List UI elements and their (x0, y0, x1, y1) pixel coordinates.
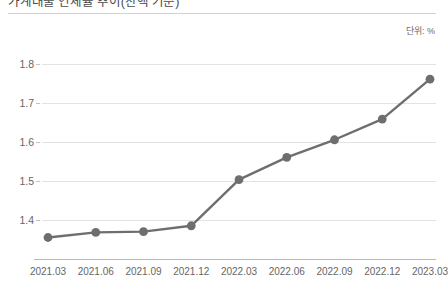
line-series: 2021.03: 1.355%2021.06: 1.368%2021.09: 1… (42, 44, 436, 259)
title-divider (8, 13, 436, 14)
data-point[interactable]: 2021.03: 1.355% (44, 233, 53, 242)
x-tick-label: 2021.06 (78, 266, 114, 277)
x-axis: 2021.032021.062021.092021.122022.032022.… (42, 266, 436, 286)
data-point[interactable]: 2022.12: 1.658% (378, 115, 387, 124)
y-tick-mark (36, 181, 40, 182)
data-point[interactable]: 2021.09: 1.37% (139, 227, 148, 236)
y-tick-mark (36, 64, 40, 65)
y-tick-label: 1.5 (19, 175, 34, 187)
x-tick-label: 2022.09 (316, 266, 352, 277)
page-title: 가계대출 연체율 추이(잔액 기준) (8, 0, 179, 10)
y-tick-mark (36, 142, 40, 143)
x-tick-label: 2023.03 (412, 266, 448, 277)
data-point[interactable]: 2022.09: 1.605% (330, 135, 339, 144)
x-tick-label: 2021.09 (125, 266, 161, 277)
x-tick-label: 2022.12 (364, 266, 400, 277)
x-tick-label: 2022.06 (269, 266, 305, 277)
x-tick-label: 2022.03 (221, 266, 257, 277)
y-tick-label: 1.8 (19, 58, 34, 70)
y-tick-mark (36, 220, 40, 221)
data-point[interactable]: 2021.12: 1.385% (187, 221, 196, 230)
data-point[interactable]: 2021.06: 1.368% (91, 228, 100, 237)
unit-label: 단위: % (406, 24, 435, 37)
series-line (48, 79, 430, 237)
data-point[interactable]: 2022.03: 1.503% (235, 175, 244, 184)
x-tick-label: 2021.12 (173, 266, 209, 277)
y-tick-label: 1.4 (19, 214, 34, 226)
y-tick-label: 1.6 (19, 136, 34, 148)
x-tick-label: 2021.03 (30, 266, 66, 277)
y-axis: 1.41.51.61.71.8 (0, 44, 34, 259)
x-axis-line (34, 259, 436, 260)
data-point[interactable]: 2023.03: 1.76% (426, 75, 435, 84)
y-tick-label: 1.7 (19, 97, 34, 109)
y-tick-mark (36, 103, 40, 104)
plot-area: 2021.03: 1.355%2021.06: 1.368%2021.09: 1… (42, 44, 436, 259)
data-point[interactable]: 2022.06: 1.56% (282, 153, 291, 162)
